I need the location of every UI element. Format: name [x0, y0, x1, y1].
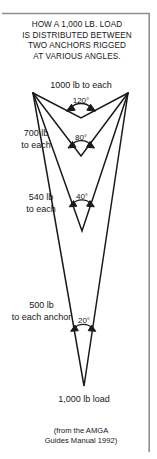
side-label-500: 500 lb to each anchor	[3, 300, 80, 323]
figure-title: HOW A 1,000 LB. LOAD IS DISTRIBUTED BETW…	[4, 20, 150, 62]
side-label-700-target: to each	[3, 140, 69, 152]
side-label-540-amount: 540 lb	[8, 192, 74, 204]
source-credit-line-1: (from the AMGA	[22, 426, 140, 436]
bottom-load-label: 1,000 lb load	[28, 394, 140, 405]
source-credit-line-2: Guides Manual 1992)	[22, 436, 140, 446]
figure-title-line-4: AT VARIOUS ANGLES.	[4, 52, 150, 63]
top-force-label: 1000 lb to each	[26, 80, 136, 91]
anchor-load-diagram: HOW A 1,000 LB. LOAD IS DISTRIBUTED BETW…	[0, 0, 157, 459]
angle-label-120: 120°	[66, 96, 96, 105]
side-label-700: 700 lb to each	[3, 128, 69, 151]
diagram-canvas	[0, 0, 157, 459]
side-label-540-target: to each	[8, 204, 74, 216]
side-label-500-amount: 500 lb	[3, 300, 80, 312]
side-label-540: 540 lb to each	[8, 192, 74, 215]
side-label-500-target: to each anchor	[3, 312, 80, 324]
figure-title-line-3: TWO ANCHORS RIGGED	[4, 41, 150, 52]
figure-title-line-2: IS DISTRIBUTED BETWEEN	[4, 31, 150, 42]
source-credit: (from the AMGA Guides Manual 1992)	[22, 426, 140, 446]
figure-title-line-1: HOW A 1,000 LB. LOAD	[4, 20, 150, 31]
side-label-700-amount: 700 lb	[3, 128, 69, 140]
angle-label-80: 80°	[66, 133, 96, 142]
